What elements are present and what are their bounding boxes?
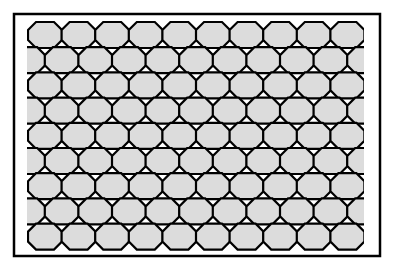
octagon-cell — [314, 148, 348, 174]
octagon-cell — [45, 98, 79, 124]
octagon-grid-figure — [0, 0, 393, 271]
octagon-cell — [263, 72, 297, 98]
octagon-cell — [213, 198, 247, 224]
octagon-cell — [179, 47, 213, 73]
octagon-cell — [162, 22, 196, 48]
octagon-cell — [62, 173, 96, 199]
octagon-cell — [146, 98, 180, 124]
octagon-cell — [179, 198, 213, 224]
octagon-cell — [28, 22, 62, 48]
octagon-cell — [45, 47, 79, 73]
octagon-cell — [78, 98, 112, 124]
octagon-cell — [297, 72, 331, 98]
octagon-cell — [95, 123, 129, 149]
octagon-cell — [62, 224, 96, 250]
octagon-cell — [78, 198, 112, 224]
octagon-cell — [263, 22, 297, 48]
octagon-cell — [246, 198, 280, 224]
octagon-cell — [330, 224, 364, 250]
octagon-cell — [112, 148, 146, 174]
octagon-cell — [314, 98, 348, 124]
octagon-cell — [129, 72, 163, 98]
octagon-cell — [330, 173, 364, 199]
octagon-cell — [230, 173, 264, 199]
octagon-cell — [196, 72, 230, 98]
octagon-cell — [213, 98, 247, 124]
octagon-cell — [314, 198, 348, 224]
octagon-cell — [280, 47, 314, 73]
octagon-cell — [112, 47, 146, 73]
octagon-cells — [11, 22, 381, 250]
octagon-cell — [28, 173, 62, 199]
octagon-cell — [95, 72, 129, 98]
octagon-cell — [213, 148, 247, 174]
octagon-cell — [246, 148, 280, 174]
octagon-cell — [179, 98, 213, 124]
octagon-cell — [280, 98, 314, 124]
octagon-cell — [45, 148, 79, 174]
octagon-cell — [297, 224, 331, 250]
octagon-cell — [196, 22, 230, 48]
octagon-cell — [162, 72, 196, 98]
octagon-cell — [230, 72, 264, 98]
octagon-cell — [179, 148, 213, 174]
octagon-cell — [146, 47, 180, 73]
octagon-cell — [263, 173, 297, 199]
octagon-cell — [330, 22, 364, 48]
octagon-cell — [129, 22, 163, 48]
octagon-cell — [280, 198, 314, 224]
octagon-cell — [196, 173, 230, 199]
octagon-cell — [263, 123, 297, 149]
octagon-cell — [162, 224, 196, 250]
octagon-cell — [62, 72, 96, 98]
octagon-cell — [213, 47, 247, 73]
octagon-cell — [112, 198, 146, 224]
octagon-cell — [297, 22, 331, 48]
octagon-cell — [28, 123, 62, 149]
octagon-cell — [62, 123, 96, 149]
octagon-cell — [230, 123, 264, 149]
octagon-cell — [146, 198, 180, 224]
octagon-cell — [28, 224, 62, 250]
octagon-cell — [95, 224, 129, 250]
octagon-cell — [196, 123, 230, 149]
octagon-cell — [78, 47, 112, 73]
octagon-cell — [95, 22, 129, 48]
octagon-cell — [129, 123, 163, 149]
octagon-cell — [196, 224, 230, 250]
octagon-cell — [45, 198, 79, 224]
octagon-cell — [297, 123, 331, 149]
octagon-cell — [146, 148, 180, 174]
octagon-cell — [162, 123, 196, 149]
octagon-cell — [246, 47, 280, 73]
octagon-cell — [78, 148, 112, 174]
octagon-cell — [162, 173, 196, 199]
octagon-cell — [314, 47, 348, 73]
octagon-cell — [330, 123, 364, 149]
octagon-cell — [129, 173, 163, 199]
octagon-cell — [112, 98, 146, 124]
octagon-cell — [62, 22, 96, 48]
octagon-grid-canvas — [0, 0, 393, 271]
octagon-cell — [297, 173, 331, 199]
octagon-cell — [95, 173, 129, 199]
octagon-cell — [280, 148, 314, 174]
octagon-cell — [263, 224, 297, 250]
octagon-cell — [28, 72, 62, 98]
octagon-cell — [246, 98, 280, 124]
octagon-cell — [230, 224, 264, 250]
octagon-cell — [330, 72, 364, 98]
octagon-cell — [230, 22, 264, 48]
octagon-cell — [129, 224, 163, 250]
